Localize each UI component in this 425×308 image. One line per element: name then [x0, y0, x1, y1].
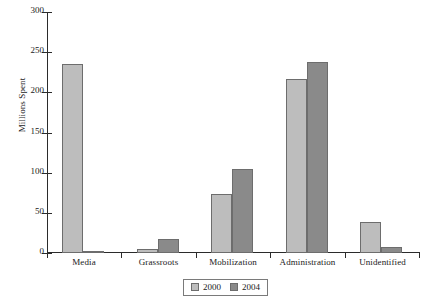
- y-tick-label-300: 300: [31, 5, 45, 15]
- y-tick-250: 250: [47, 52, 48, 53]
- legend-swatch-2000: [191, 283, 199, 291]
- legend: 2000 2004: [183, 279, 268, 296]
- plot-area: 0 50 100 150 200 250 300: [47, 12, 420, 253]
- legend-item-2000: 2000: [191, 282, 221, 292]
- y-tick-label-0: 0: [40, 246, 45, 256]
- y-tick-150: 150: [47, 133, 48, 134]
- bar-media-2004: [83, 251, 104, 253]
- y-tick-50: 50: [47, 213, 48, 214]
- legend-swatch-2004: [230, 283, 238, 291]
- bar-media-2000: [62, 64, 83, 253]
- x-category-label-unidentified: Unidentified: [345, 257, 420, 267]
- legend-label-2004: 2004: [242, 282, 260, 292]
- y-tick-label-250: 250: [31, 45, 45, 55]
- bar-unidentified-2004: [381, 247, 402, 253]
- y-axis-label: Millions Spent: [17, 45, 27, 165]
- bar-unidentified-2000: [360, 222, 381, 253]
- bar-mobilization-2000: [211, 194, 232, 253]
- y-tick-label-150: 150: [31, 126, 45, 136]
- y-tick-label-100: 100: [31, 166, 45, 176]
- x-category-label-grassroots: Grassroots: [121, 257, 196, 267]
- bar-administration-2004: [307, 62, 328, 253]
- y-tick-300: 300: [47, 12, 48, 13]
- y-tick-200: 200: [47, 92, 48, 93]
- bar-chart: Millions Spent 0 50 100 150 200 250: [0, 0, 425, 308]
- bar-mobilization-2004: [232, 169, 253, 253]
- legend-label-2000: 2000: [203, 282, 221, 292]
- y-tick-label-200: 200: [31, 85, 45, 95]
- x-category-label-administration: Administration: [270, 257, 345, 267]
- y-tick-label-50: 50: [35, 206, 44, 216]
- bar-administration-2000: [286, 79, 307, 253]
- legend-item-2004: 2004: [230, 282, 260, 292]
- bar-grassroots-2004: [158, 239, 179, 253]
- x-category-label-media: Media: [47, 257, 121, 267]
- x-category-label-mobilization: Mobilization: [196, 257, 270, 267]
- y-tick-100: 100: [47, 173, 48, 174]
- bar-grassroots-2000: [137, 249, 158, 253]
